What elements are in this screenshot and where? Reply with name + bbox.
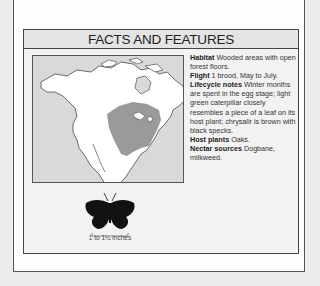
range-map bbox=[32, 55, 184, 183]
panel-title: FACTS AND FEATURES bbox=[24, 30, 298, 49]
facts-text: Habitat Wooded areas with open forest fl… bbox=[190, 53, 298, 162]
facts-and-features-panel: FACTS AND FEATURES Habitat Wooded areas … bbox=[23, 29, 299, 254]
fact-lifecycle-notes: Lifecycle notes Winter months are spent … bbox=[190, 80, 298, 135]
size-caption: 1 to 1¼ inches bbox=[70, 234, 150, 241]
fact-host-plants: Host plants Oaks. bbox=[190, 135, 298, 144]
north-america-map-icon bbox=[33, 56, 184, 183]
fact-nectar-sources: Nectar sources Dogbane, milkweed. bbox=[190, 144, 298, 162]
fact-flight: Flight 1 brood, May to July. bbox=[190, 71, 298, 80]
fact-habitat: Habitat Wooded areas with open forest fl… bbox=[190, 53, 298, 71]
